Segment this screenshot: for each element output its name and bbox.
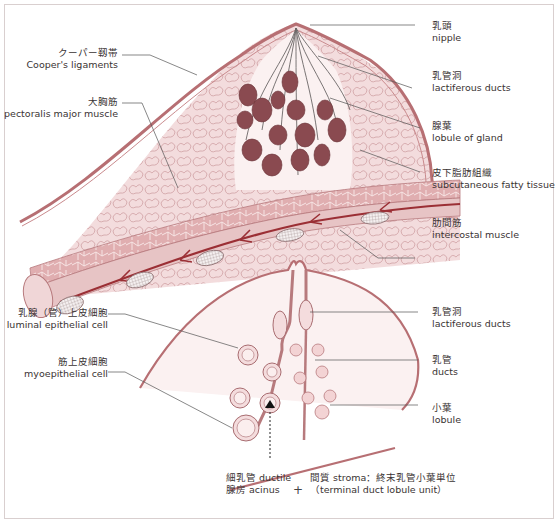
- label-subcutaneous-fat: 皮下脂肪組織 subcutaneous fatty tissue: [432, 167, 555, 191]
- caption-ductile-acinus: 細乳管 ductile 腺房 acinus: [226, 472, 291, 496]
- label-lobule-of-gland: 腺葉 lobule of gland: [432, 120, 503, 144]
- caption-stroma-tdlu: 間質 stroma：終末乳管小葉単位 （terminal duct lobule…: [310, 472, 456, 496]
- label-lobule: 小葉 lobule: [432, 402, 461, 426]
- label-myoepithelial: 筋上皮細胞 myoepithelial cell: [24, 356, 108, 380]
- label-lactiferous-ducts-top: 乳管洞 lactiferous ducts: [432, 70, 511, 94]
- label-pectoralis-major: 大胸筋 pectoralis major muscle: [4, 96, 118, 120]
- caption-plus: +: [293, 483, 303, 497]
- label-ducts: 乳管 ducts: [432, 354, 458, 378]
- label-lactiferous-ducts-bottom: 乳管洞 lactiferous ducts: [432, 306, 511, 330]
- terminal-duct-lobular-unit: [140, 261, 418, 490]
- label-nipple: 乳頭 nipple: [432, 20, 461, 44]
- label-intercostal-muscle: 肋間筋 intercostal muscle: [432, 217, 519, 241]
- label-coopers-ligaments: クーパー靱帯 Cooper's ligaments: [26, 47, 118, 71]
- label-luminal-epithelial: 乳腺（管）上皮細胞 luminal epithelial cell: [7, 307, 108, 331]
